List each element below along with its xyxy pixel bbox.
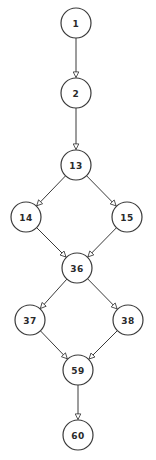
- node-60: 60: [63, 420, 93, 450]
- node-label: 1: [73, 19, 80, 29]
- edge-36-to-37: [40, 279, 67, 308]
- node-label: 36: [70, 264, 84, 274]
- node-2: 2: [61, 78, 91, 108]
- node-label: 38: [121, 316, 135, 326]
- control-flow-graph: 121314153637385960: [0, 0, 156, 460]
- node-label: 60: [71, 431, 85, 441]
- node-label: 13: [69, 161, 83, 171]
- node-37: 37: [15, 305, 45, 335]
- node-1: 1: [61, 8, 91, 38]
- node-14: 14: [11, 202, 41, 232]
- edge-37-to-59: [40, 331, 67, 359]
- node-label: 59: [71, 366, 85, 376]
- node-13: 13: [61, 150, 91, 180]
- node-label: 37: [23, 316, 37, 326]
- edge-15-to-36: [88, 228, 117, 257]
- node-label: 15: [120, 213, 134, 223]
- node-59: 59: [63, 355, 93, 385]
- node-label: 14: [19, 213, 33, 223]
- edge-13-to-15: [87, 176, 117, 206]
- edge-38-to-59: [89, 331, 117, 359]
- nodes-layer: 121314153637385960: [11, 8, 143, 450]
- node-36: 36: [62, 253, 92, 283]
- node-label: 2: [73, 89, 80, 99]
- edge-13-to-14: [37, 176, 66, 206]
- node-15: 15: [112, 202, 142, 232]
- node-38: 38: [113, 305, 143, 335]
- edge-14-to-36: [37, 228, 66, 257]
- edge-36-to-38: [88, 279, 118, 309]
